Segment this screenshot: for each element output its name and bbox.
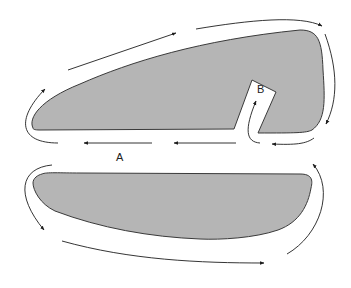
flow-diagram: A B [0,0,351,288]
arrow-bottom-right-icon [272,138,314,144]
label-b: B [257,83,264,95]
arrow-right-down-icon [325,34,335,124]
arrow-lower-bottom-icon [62,241,264,263]
lower-shape [33,173,312,239]
label-a: A [116,151,124,163]
upper-shape [32,30,324,133]
arrow-top-right-icon [196,20,322,29]
arrow-notch-up-icon [248,101,260,143]
diagram-canvas: A B [0,0,351,288]
